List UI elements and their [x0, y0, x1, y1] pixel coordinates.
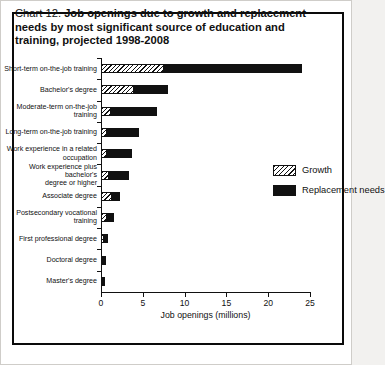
x-axis-tick-label: 0: [99, 298, 104, 308]
x-axis-tick: [226, 292, 227, 297]
category-axis-labels: Short-term on-the-job trainingBachelor's…: [1, 58, 97, 292]
x-axis-tick: [268, 292, 269, 297]
chart-title: Chart 12. Job openings due to growth and…: [15, 7, 315, 48]
x-axis-tick: [310, 292, 311, 297]
category-label: Postsecondary vocational training: [16, 209, 97, 226]
y-axis-tick: [97, 186, 101, 187]
y-axis-tick: [97, 101, 101, 102]
category-label: Work experience plus bachelor's degree o…: [1, 163, 97, 188]
bar-segment-replacement: [107, 213, 115, 222]
x-axis-tick: [185, 292, 186, 297]
category-label: Master's degree: [46, 277, 97, 285]
y-axis-tick: [97, 249, 101, 250]
y-axis-tick: [97, 271, 101, 272]
bar-segment-replacement: [111, 107, 157, 116]
bar-segment-replacement: [103, 277, 106, 286]
category-label: Short-term on-the-job training: [4, 65, 97, 73]
category-label: Work experience in a related occupation: [7, 145, 97, 162]
category-label: Moderate-term on-the-job training: [17, 103, 97, 120]
x-axis-tick-label: 15: [222, 298, 232, 308]
y-axis-tick: [97, 79, 101, 80]
plot-area: 0510152025 Job openings (millions) Growt…: [101, 58, 312, 292]
bar-segment-growth: [101, 107, 111, 116]
x-axis-tick: [143, 292, 144, 297]
chart-title-prefix: Chart 12.: [15, 7, 61, 19]
bar-segment-replacement: [103, 256, 106, 265]
y-axis-tick: [97, 122, 101, 123]
x-axis-tick-label: 20: [263, 298, 273, 308]
x-axis-tick-label: 10: [180, 298, 190, 308]
category-label: Long-term on-the-job training: [6, 128, 97, 136]
x-axis-tick: [101, 292, 102, 297]
bar-segment-growth: [101, 64, 164, 73]
legend-swatch-replacement-icon: [273, 185, 296, 196]
y-axis-tick: [97, 207, 101, 208]
x-axis-tick-label: 25: [305, 298, 315, 308]
bar-segment-replacement: [104, 234, 108, 243]
legend-label-growth: Growth: [302, 165, 332, 175]
x-axis-tick-label: 5: [140, 298, 145, 308]
bar-segment-replacement: [112, 192, 120, 201]
y-axis-tick: [97, 58, 101, 59]
y-axis-tick: [97, 143, 101, 144]
bar-segment-growth: [101, 85, 134, 94]
x-axis-line: [101, 292, 310, 293]
category-label: Associate degree: [42, 192, 97, 200]
y-axis-tick: [97, 164, 101, 165]
bar-segment-replacement: [107, 149, 132, 158]
legend-label-replacement: Replacement needs: [302, 185, 385, 195]
bar-segment-replacement: [109, 171, 129, 180]
bar-segment-replacement: [164, 64, 302, 73]
x-axis-title: Job openings (millions): [101, 310, 310, 320]
category-label: Bachelor's degree: [40, 86, 97, 94]
bar-segment-replacement: [134, 85, 168, 94]
bar-segment-replacement: [107, 128, 140, 137]
y-axis-tick: [97, 228, 101, 229]
category-label: First professional degree: [19, 235, 97, 243]
legend-swatch-growth-icon: [273, 165, 296, 176]
bar-segment-growth: [101, 192, 112, 201]
category-label: Doctoral degree: [47, 256, 97, 264]
bar-segment-growth: [101, 171, 109, 180]
